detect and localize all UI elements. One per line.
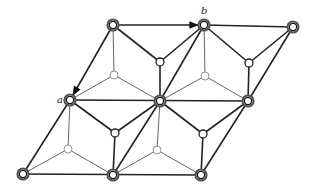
label-b: b	[201, 5, 207, 16]
label-a: a	[57, 94, 63, 105]
lattice-diagram: a b	[0, 0, 313, 192]
vector-a	[73, 25, 113, 95]
basis-vectors	[73, 25, 198, 95]
